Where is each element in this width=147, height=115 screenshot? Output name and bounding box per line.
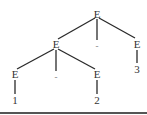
node-leaf-2: 2 (94, 94, 100, 106)
node-left: E (53, 38, 60, 50)
edge-left-leftchild (17, 49, 54, 69)
edge-root-right (99, 18, 135, 38)
node-root-operator: - (96, 41, 99, 51)
node-right-leaf: 3 (134, 63, 140, 75)
node-leaf-1: 1 (12, 94, 18, 106)
parse-tree-diagram: E E - E 3 E - E 1 2 (0, 0, 147, 115)
edge-left-rightchild (58, 49, 95, 69)
node-left-operator: - (55, 72, 58, 82)
node-right: E (134, 38, 141, 50)
node-root: E (94, 8, 101, 20)
horizontal-rule (0, 112, 147, 114)
tree-nodes: E E - E 3 E - E 1 2 (12, 8, 141, 106)
tree-edges (15, 18, 137, 94)
node-left-right: E (94, 68, 101, 80)
node-left-left: E (12, 68, 19, 80)
edge-root-left (58, 18, 95, 39)
